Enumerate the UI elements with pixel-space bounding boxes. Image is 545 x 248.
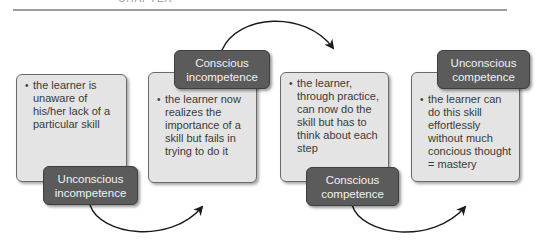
arrow-stage3-to-stage4 bbox=[352, 205, 465, 232]
stage-label-conscious-competence: Conscious competence bbox=[306, 167, 399, 206]
stage-description-text: the learner, through practice, can now d… bbox=[297, 77, 379, 154]
stage-description-text: the learner is unaware of his/her lack o… bbox=[33, 79, 110, 130]
arrow-stage2-to-stage3 bbox=[222, 21, 333, 50]
bullet-icon: • bbox=[289, 77, 293, 90]
bullet-icon: • bbox=[420, 93, 424, 106]
label-line-2: incompetence bbox=[55, 186, 127, 200]
stage-label-unconscious-incompetence: Unconscious incompetence bbox=[43, 166, 138, 205]
stage-description: • the learner is unaware of his/her lack… bbox=[25, 79, 120, 131]
label-line-1: Conscious bbox=[326, 173, 380, 187]
arrow-stage1-to-stage2 bbox=[90, 205, 202, 232]
stage-description-text: the learner can do this skill effortless… bbox=[428, 93, 511, 170]
stage-description: • the learner, through practice, can now… bbox=[289, 77, 382, 155]
label-line-2: incompetence bbox=[186, 70, 258, 84]
stage-description: • the learner now realizes the importanc… bbox=[157, 93, 250, 158]
label-line-2: competence bbox=[452, 70, 515, 84]
bullet-icon: • bbox=[157, 93, 161, 106]
label-line-2: competence bbox=[321, 187, 384, 201]
label-line-1: Unconscious bbox=[451, 56, 517, 70]
label-line-1: Unconscious bbox=[58, 172, 124, 186]
stage-label-conscious-incompetence: Conscious incompetence bbox=[174, 50, 270, 89]
stage-description: • the learner can do this skill effortle… bbox=[420, 93, 513, 171]
stage-label-unconscious-competence: Unconscious competence bbox=[437, 50, 530, 89]
stage-box-conscious-competence: • the learner, through practice, can now… bbox=[280, 72, 389, 182]
stage-description-text: the learner now realizes the importance … bbox=[165, 93, 241, 157]
label-line-1: Conscious bbox=[195, 56, 249, 70]
bullet-icon: • bbox=[25, 79, 29, 92]
